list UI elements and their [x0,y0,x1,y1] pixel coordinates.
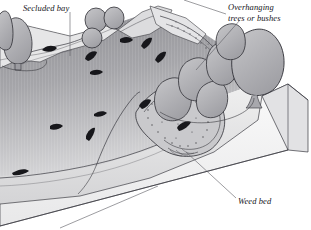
label-weed-bed: Weed bed [238,196,271,207]
label-overhanging-line2: trees or bushes [228,13,281,24]
bush [216,24,245,60]
bush [104,7,124,29]
label-overhanging-trees: Overhanging trees or bushes [228,2,281,23]
tree [0,11,13,50]
bush [82,28,102,48]
leader-overhanging-up [184,0,226,14]
label-overhanging-line1: Overhanging [228,2,281,13]
habitat-diagram: Secluded bay Overhanging trees or bushes… [0,0,311,230]
label-secluded-bay: Secluded bay [23,3,69,14]
